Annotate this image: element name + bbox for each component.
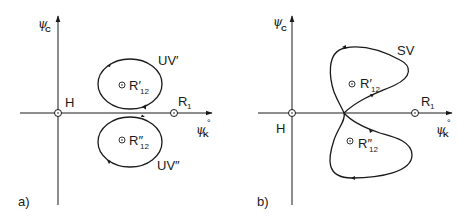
arrow-uv-double-prime-1 [141, 115, 145, 118]
node-r12-prime-b [349, 81, 355, 87]
x-axis-label-sub-a: K [203, 130, 209, 139]
x-axis-label-sup-a: ° [207, 118, 211, 128]
label-r1-a: R [178, 94, 187, 109]
node-r12-double-prime-a [119, 137, 125, 143]
label-r12-double-prime-sub-b: 12 [369, 145, 378, 154]
phase-diagram-figure: ψ C ψ K ° H R 1 R′ 12 UV′ [0, 0, 476, 222]
label-uv-prime: UV′ [158, 53, 179, 68]
panel-b: ψ C ψ K ° H R 1 R′ 12 [257, 15, 452, 209]
y-axis-label-sub-b: C [281, 24, 287, 33]
node-r12-prime-a [119, 82, 125, 88]
curve-sv [330, 47, 412, 178]
label-h-b: H [276, 121, 285, 136]
node-r1-a [171, 110, 178, 117]
arrow-sv-4 [351, 176, 355, 180]
node-h-b [289, 110, 296, 117]
label-r1-sub-b: 1 [430, 102, 435, 111]
label-uv-double-prime: UV″ [157, 158, 180, 173]
label-sv: SV [397, 43, 415, 58]
label-r1-sub-a: 1 [187, 102, 192, 111]
label-r1-b: R [421, 94, 430, 109]
node-h-a [55, 110, 62, 117]
label-r12-prime-sub-b: 12 [371, 85, 380, 94]
label-r12-prime-sub-a: 12 [140, 87, 149, 96]
y-axis-label-sub-a: C [45, 25, 51, 34]
panel-label-b: b) [257, 194, 269, 209]
node-r1-b [412, 110, 419, 117]
label-h-a: H [65, 95, 74, 110]
x-axis-label-sub-b: K [443, 130, 449, 139]
arrow-uv-prime-2 [142, 105, 146, 110]
label-r12-double-prime-sub-a: 12 [140, 142, 149, 151]
node-r12-double-prime-b [347, 138, 353, 144]
x-axis-label-sup-b: ° [447, 118, 451, 128]
panel-a: ψ C ψ K ° H R 1 R′ 12 UV′ [18, 16, 212, 209]
panel-label-a: a) [18, 194, 30, 209]
